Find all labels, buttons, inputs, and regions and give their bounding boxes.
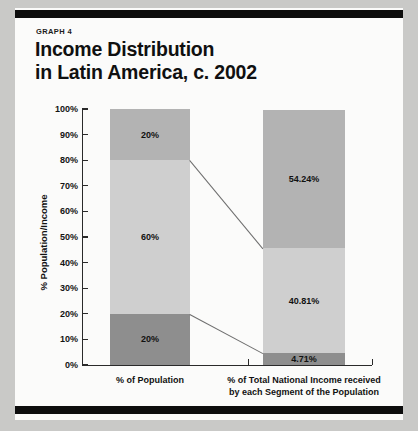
y-axis-title: % Population/Income (38, 163, 49, 323)
figure-card: GRAPH 4 Income Distribution in Latin Ame… (15, 8, 403, 420)
y-axis-tick (82, 262, 88, 263)
bar-segment: 54.24% (263, 110, 345, 249)
y-axis-tick (82, 236, 88, 237)
y-axis-tick (82, 108, 88, 109)
y-axis-tick-label: 90% (38, 130, 78, 140)
plot-area: 0%10%20%30%40%50%60%70%80%90%100% % Popu… (15, 8, 403, 406)
y-axis-tick-label: 0% (38, 360, 78, 370)
category-label-line-1: % of Total National Income received (209, 374, 399, 386)
segment-connector-line (189, 160, 263, 249)
bottom-rule (15, 406, 403, 414)
x-axis-tick (372, 359, 373, 365)
segment-connector-line (189, 314, 263, 354)
x-axis-tick (82, 359, 83, 365)
stacked-bar: 20%60%20% (110, 109, 190, 365)
category-label-line-2: by each Segment of the Population (209, 386, 399, 398)
x-axis-tick (248, 359, 249, 365)
y-axis-tick (82, 288, 88, 289)
bar-segment: 60% (110, 160, 190, 314)
y-axis-tick-label: 10% (38, 334, 78, 344)
x-axis-category-label: % of Total National Income receivedby ea… (209, 374, 399, 398)
y-axis-tick (82, 160, 88, 161)
stacked-bar: 4.71%40.81%54.24% (263, 109, 345, 365)
bar-segment: 20% (110, 109, 190, 160)
y-axis-tick-label: 100% (38, 104, 78, 114)
y-axis-tick (82, 211, 88, 212)
y-axis-tick (82, 134, 88, 135)
bar-segment: 20% (110, 314, 190, 365)
y-axis-tick (82, 339, 88, 340)
bar-segment: 4.71% (263, 353, 345, 365)
bar-segment: 40.81% (263, 248, 345, 352)
y-axis-tick (82, 185, 88, 186)
y-axis-tick (82, 313, 88, 314)
